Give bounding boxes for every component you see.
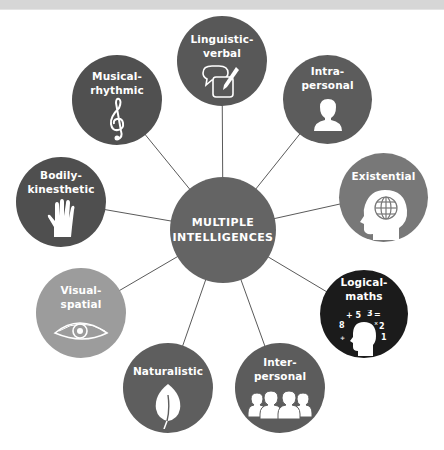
math-symbol: ×: [374, 320, 378, 326]
hand-icon: [46, 199, 76, 239]
node-label: Logical- maths: [320, 275, 408, 303]
node-naturalistic: Naturalistic: [123, 343, 213, 433]
group-of-people-icon: [247, 390, 313, 420]
node-logical-maths: Logical- maths + 5 3 = 8 × 2 ÷ 1: [320, 270, 408, 358]
node-musical-rhythmic: Musical- rhythmic: [72, 55, 162, 145]
math-symbol: 3: [367, 310, 373, 318]
math-symbol: 1: [381, 333, 387, 342]
node-linguistic-verbal: Linguistic- verbal: [177, 16, 267, 106]
node-label: Inter- personal: [235, 355, 325, 383]
node-label: Visual- spatial: [36, 283, 126, 311]
person-bust-icon: [310, 97, 346, 133]
node-bodily-kinesthetic: Bodily- kinesthetic: [16, 157, 106, 247]
node-intra-personal: Intra- personal: [283, 55, 372, 144]
node-inter-personal: Inter- personal: [235, 343, 325, 433]
center-node-multiple-intelligences: MULTIPLE INTELLIGENCES: [170, 177, 276, 283]
math-symbol: + 5: [346, 311, 361, 320]
math-symbol: =: [374, 310, 381, 319]
node-existential: Existential: [339, 153, 428, 242]
node-label: Linguistic- verbal: [177, 32, 267, 60]
leaf-icon: [153, 383, 183, 429]
node-label: Intra- personal: [283, 64, 372, 92]
node-label: Existential: [339, 169, 428, 183]
speech-and-pen-icon: [199, 63, 245, 99]
node-label: Bodily- kinesthetic: [16, 168, 106, 196]
center-label: MULTIPLE INTELLIGENCES: [170, 215, 276, 245]
head-with-globe-icon: [355, 188, 409, 240]
eye-icon: [53, 319, 109, 343]
math-symbol: 2: [379, 322, 385, 331]
math-symbol: ÷: [340, 334, 345, 341]
math-symbol: 8: [339, 321, 345, 330]
node-visual-spatial: Visual- spatial: [36, 268, 126, 358]
head-with-numbers-icon: + 5 3 = 8 × 2 ÷ 1: [336, 310, 392, 356]
node-label: Musical- rhythmic: [72, 69, 162, 97]
treble-clef-icon: [106, 97, 128, 141]
node-label: Naturalistic: [123, 364, 213, 378]
